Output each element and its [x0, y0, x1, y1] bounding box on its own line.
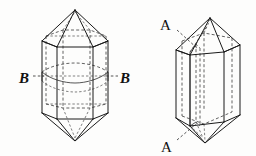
- label-A-bottom: A: [161, 139, 172, 155]
- crystal-figure: B B: [0, 0, 256, 156]
- label-B-right: B: [119, 70, 130, 86]
- right-crystal-outline: [176, 18, 240, 143]
- left-crystal-outline: [42, 10, 108, 141]
- right-crystal-section-plane-AA: [190, 26, 207, 138]
- label-B-left: B: [18, 70, 29, 86]
- label-A-top: A: [160, 17, 171, 33]
- left-crystal: B B: [18, 10, 130, 141]
- left-crystal-section-plane-BB: [42, 63, 108, 92]
- right-crystal: A A: [160, 17, 240, 155]
- figure-root: B B: [0, 0, 256, 156]
